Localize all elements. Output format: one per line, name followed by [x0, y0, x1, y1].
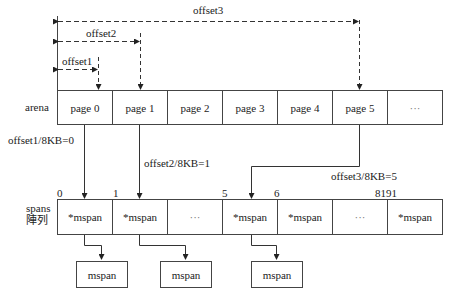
- arena-page-5: page 5: [332, 90, 388, 125]
- mapping-offset3-label: offset3/8KB=5: [331, 170, 397, 182]
- arena-page-0: page 0: [57, 90, 113, 125]
- span-cell-ellipsis-2: ···: [332, 199, 388, 235]
- mapping-offset2-label: offset2/8KB=1: [144, 157, 210, 169]
- arena-page-4: page 4: [277, 90, 333, 125]
- span-cell-1: *mspan: [112, 199, 168, 235]
- arena-label: arena: [25, 101, 49, 113]
- span-index-8191: 8191: [375, 187, 397, 199]
- mapping-offset1-label: offset1/8KB=0: [8, 134, 74, 146]
- offset2-label: offset2: [86, 27, 116, 39]
- span-index-1: 1: [113, 187, 119, 199]
- diagram-lines: [0, 0, 453, 297]
- offset3-label: offset3: [193, 4, 223, 16]
- arena-page-ellipsis: ···: [387, 90, 443, 125]
- span-cell-8191: *mspan: [387, 199, 443, 235]
- span-cell-5: *mspan: [222, 199, 278, 235]
- span-cell-6: *mspan: [277, 199, 333, 235]
- span-cell-ellipsis-1: ···: [167, 199, 223, 235]
- span-index-5: 5: [222, 187, 228, 199]
- mspan-box-1: mspan: [160, 261, 212, 288]
- offset1-label: offset1: [62, 55, 92, 67]
- spans-array-label: 陣列: [26, 215, 48, 227]
- mspan-box-5: mspan: [251, 261, 303, 288]
- spans-label: spans: [26, 202, 50, 214]
- arena-page-3: page 3: [222, 90, 278, 125]
- span-cell-0: *mspan: [57, 199, 113, 235]
- span-index-6: 6: [274, 187, 280, 199]
- arena-page-1: page 1: [112, 90, 168, 125]
- mspan-box-0: mspan: [76, 261, 128, 288]
- span-index-0: 0: [57, 187, 63, 199]
- arena-page-2: page 2: [167, 90, 223, 125]
